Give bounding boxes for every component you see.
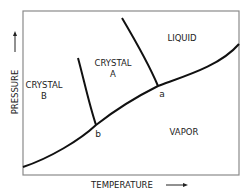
- region-label-vapor: VAPOR: [170, 127, 199, 137]
- region-label-crystal-a-1: CRYSTAL: [95, 58, 132, 68]
- crystal-b-crystal-a-boundary: [78, 58, 96, 125]
- region-label-crystal-b-2: B: [41, 91, 47, 101]
- phase-diagram: CRYSTAL B CRYSTAL A LIQUID VAPOR a b TEM…: [0, 0, 249, 193]
- region-label-liquid: LIQUID: [167, 33, 197, 43]
- region-label-crystal-a-2: A: [110, 69, 116, 79]
- region-label-crystal-b-1: CRYSTAL: [26, 80, 63, 90]
- plot-frame: [23, 11, 239, 175]
- x-axis-arrow-icon: [166, 183, 188, 187]
- triple-point-b-label: b: [95, 129, 101, 139]
- crystal-a-liquid-boundary: [122, 18, 158, 86]
- triple-point-a-label: a: [159, 89, 165, 99]
- x-axis-label: TEMPERATURE: [90, 180, 153, 190]
- y-axis-label: PRESSURE: [10, 70, 20, 115]
- y-axis-arrow-icon: [13, 31, 17, 52]
